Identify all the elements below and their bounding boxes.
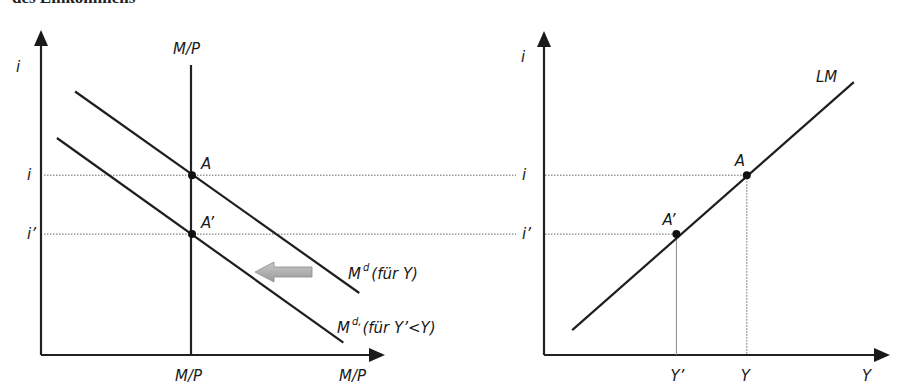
right-y-axis-label: i [521, 48, 526, 66]
money-market-panel: i M/P M/P M/P Md(für Y) Md,(für Y’<Y) AA… [16, 30, 436, 385]
money-supply-tick-label: M/P [175, 367, 203, 385]
left-y-axis-arrow-icon [34, 30, 48, 46]
point-label: A’ [200, 214, 214, 232]
right-y-tick-label: i [522, 166, 527, 184]
left-y-tick-label: i [27, 166, 32, 184]
md-label: Md(für Y) [348, 262, 418, 283]
left-x-axis-label: M/P [339, 367, 367, 385]
lm-point-label: A [734, 152, 745, 170]
left-y-axis-label: i [16, 58, 21, 76]
horizontal-guides: iii’i’ [27, 166, 747, 243]
right-y-tick-label: i’ [522, 225, 531, 243]
lm-curve [572, 82, 854, 330]
money-supply-label: M/P [173, 40, 201, 58]
point-label: A [200, 155, 211, 173]
lm-label: LM [816, 68, 837, 86]
lm-panel: i Y LM AA’ Y’Y [521, 31, 890, 385]
lm-point-label: A’ [661, 211, 675, 229]
left-x-axis-arrow-icon [369, 348, 385, 362]
lm-point-1 [672, 230, 680, 238]
lm-point-0 [743, 171, 751, 179]
right-y-axis-arrow-icon [537, 31, 551, 47]
demand-shift-arrow-icon [255, 262, 312, 282]
md-prime-label: Md,(für Y’<Y) [337, 316, 436, 337]
left-y-tick-label: i’ [27, 225, 36, 243]
right-x-axis-label: Y [862, 367, 873, 385]
money-demand-curve-0 [75, 92, 359, 294]
equilibrium-point-1 [188, 230, 196, 238]
money-market-lm-diagram: iii’i’ i M/P M/P M/P Md(für Y) Md,(für Y… [0, 0, 905, 390]
equilibrium-point-0 [188, 171, 196, 179]
right-x-axis-arrow-icon [874, 348, 890, 362]
x-tick-label: Y’ [670, 367, 684, 385]
x-tick-label: Y [741, 367, 752, 385]
